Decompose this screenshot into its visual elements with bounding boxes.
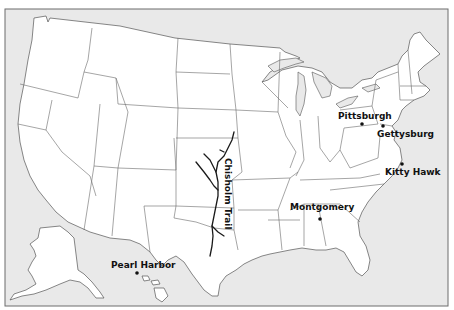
marker-kitty-hawk (400, 162, 404, 166)
label-montgomery: Montgomery (290, 202, 354, 212)
marker-montgomery (318, 217, 322, 221)
marker-pittsburgh (360, 122, 364, 126)
label-chisholm-trail: Chisholm Trail (223, 158, 233, 229)
label-pearl-harbor: Pearl Harbor (111, 260, 176, 270)
us-map: Chisholm Trail Pittsburgh Gettysburg Kit… (0, 0, 454, 310)
label-kitty-hawk: Kitty Hawk (385, 167, 442, 177)
label-pittsburgh: Pittsburgh (338, 111, 392, 121)
marker-pearl-harbor (135, 271, 139, 275)
label-gettysburg: Gettysburg (377, 129, 434, 139)
marker-gettysburg (381, 124, 385, 128)
